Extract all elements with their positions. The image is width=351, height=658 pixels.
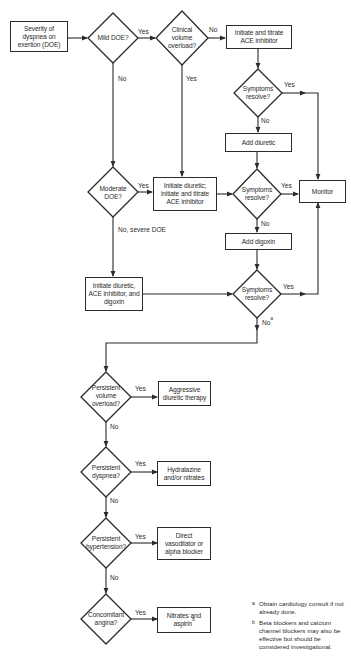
decision-symptoms-resolve-3: Symptoms resolve? [237, 285, 277, 303]
action-add-digoxin: Add digoxin [225, 233, 292, 250]
edge-label-moderate-no-severe: No, severe DOE [118, 226, 166, 234]
start-box-severity-doe: Severity of dyspnea on exertion (DOE) [10, 21, 68, 52]
footnote-b-marker: b [252, 618, 255, 626]
decision-mild-doe: Mild DOE? [91, 30, 135, 46]
edge-label-ph-yes: Yes [135, 533, 146, 541]
edge-label-ph-no: No [110, 574, 118, 582]
action-initiate-diuretic-ace-digoxin: Initiate diuretic, ACE inhibitor, and di… [85, 277, 143, 311]
action-monitor: Monitor [299, 180, 346, 203]
edge-label-moderate-yes: Yes [138, 182, 149, 190]
edge-label-sym2-no: No [261, 220, 269, 228]
decision-persistent-volume-overload: Persistent volume overload? [86, 383, 126, 409]
edge-label-clinical-yes: Yes [186, 75, 197, 83]
edge-label-sym3-no: Noa [262, 319, 273, 327]
footnote-a: a Obtain cardiology consult if not alrea… [259, 600, 349, 616]
footnote-a-text: Obtain cardiology consult if not already… [259, 600, 344, 615]
decision-symptoms-resolve-2: Symptoms resolve? [237, 185, 277, 203]
action-initiate-diuretic-titrate-ace: Initiate diuretic; initiate and titrate … [153, 177, 217, 211]
edge-label-pvo-no: No [110, 423, 118, 431]
footnote-marker-b: b [192, 617, 194, 622]
edge-label-sym1-no: No [261, 117, 269, 125]
decision-persistent-dyspnea: Persistent dyspnea? [86, 463, 126, 481]
decision-symptoms-resolve-1: Symptoms resolve? [238, 84, 278, 102]
edge-label-sym2-yes: Yes [281, 182, 292, 190]
action-add-diuretic: Add diuretic [225, 133, 292, 152]
decision-clinical-volume-overload: Clinical volume overload? [163, 25, 201, 51]
edge-label-angina-yes: Yes [135, 609, 146, 617]
start-label: Severity of dyspnea on exertion (DOE) [13, 25, 65, 49]
edge-label-pd-yes: Yes [135, 460, 146, 468]
footnote-a-marker: a [252, 599, 255, 607]
action-aggressive-diuretic: Aggressive diuretic therapy [158, 381, 211, 406]
footnote-b: b Beta blockers and calcium channel bloc… [259, 619, 349, 651]
edge-label-sym3-yes: Yes [283, 283, 294, 291]
action-direct-vasodilator: Direct vasodilator or alpha blocker [157, 527, 211, 560]
footnote-b-text: Beta blockers and calcium channel blocke… [259, 619, 341, 650]
action-nitrates-aspirin: Nitrates and aspirinb [157, 607, 211, 633]
edge-label-sym1-yes: Yes [284, 81, 295, 89]
action-hydralazine-nitrates: Hydralazine and/or nitrates [157, 461, 211, 486]
footnote-marker-a: a [270, 316, 273, 321]
action-initiate-titrate-ace: Initiate and titrate ACE inhibitor [226, 25, 292, 49]
edge-label-clinical-no: No [209, 26, 217, 34]
edge-label-mild-no: No [118, 75, 126, 83]
edge-label-mild-yes: Yes [138, 28, 149, 36]
decision-moderate-doe: Moderate DOE? [93, 184, 133, 201]
edge-label-pd-no: No [110, 497, 118, 505]
edge-label-pvo-yes: Yes [135, 385, 146, 393]
decision-persistent-hypertension: Persistent hypertension? [83, 534, 129, 552]
decision-concomitant-angina: Concomitant angina? [83, 610, 129, 628]
